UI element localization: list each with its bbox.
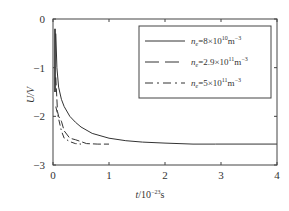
legend-label: ne=2.9×1011m−3 bbox=[191, 56, 248, 68]
y-tick-label: −1 bbox=[33, 62, 45, 74]
legend-label: ne=5×1011m−3 bbox=[191, 77, 241, 89]
x-tick-label: 1 bbox=[106, 169, 112, 181]
x-tick-label: 0 bbox=[50, 169, 56, 181]
series-line-dashdot bbox=[56, 107, 81, 145]
y-tick-label: −3 bbox=[33, 159, 45, 171]
series-line-dashed bbox=[56, 77, 109, 144]
x-tick-label: 2 bbox=[162, 169, 168, 181]
y-axis-label: U/V bbox=[25, 85, 36, 103]
x-axis-label: t/10−23s bbox=[136, 189, 165, 200]
y-tick-label: 0 bbox=[40, 13, 46, 25]
x-tick-label: 4 bbox=[274, 169, 280, 181]
legend: ne=8×1010m−3ne=2.9×1011m−3ne=5×1011m−3 bbox=[139, 26, 271, 98]
line-chart: 012340−1−2−3 ne=8×1010m−3ne=2.9×1011m−3n… bbox=[0, 0, 289, 211]
legend-label: ne=8×1010m−3 bbox=[191, 35, 241, 47]
y-tick-label: −2 bbox=[33, 110, 45, 122]
x-tick-label: 3 bbox=[218, 169, 224, 181]
